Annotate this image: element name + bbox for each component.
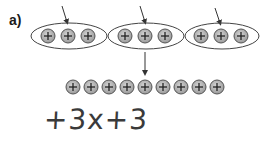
group-1-chips xyxy=(41,29,95,43)
handwritten-expression: +3x+3 xyxy=(43,103,149,136)
group-arrows xyxy=(62,6,220,23)
combined-row-chips xyxy=(66,80,224,94)
group-2-chips xyxy=(118,29,172,43)
group-3-chips xyxy=(194,29,248,43)
